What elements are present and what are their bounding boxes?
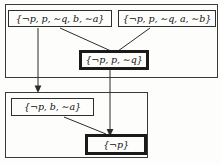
clause-node-c[interactable]: {¬p, p, ∼q} bbox=[81, 52, 147, 68]
clause-node-a[interactable]: {¬p, p, ∼q, b, ∼a} bbox=[8, 10, 112, 27]
edge-clause-b-to-clause-c bbox=[118, 28, 150, 51]
edge-clause-d-to-clause-e bbox=[64, 117, 106, 134]
edge-clause-a-to-clause-c bbox=[60, 28, 111, 51]
clause-node-b[interactable]: {¬p, p, ∼q, a, ∼b} bbox=[118, 10, 216, 27]
arrowhead-lower-group bbox=[35, 86, 42, 94]
clause-node-d[interactable]: {¬p, b, ∼a} bbox=[11, 98, 94, 116]
diagram-canvas: {¬p, p, ∼q, b, ∼a} {¬p, p, ∼q, a, ∼b} {¬… bbox=[0, 0, 221, 164]
clause-node-e[interactable]: {¬p} bbox=[87, 136, 145, 153]
